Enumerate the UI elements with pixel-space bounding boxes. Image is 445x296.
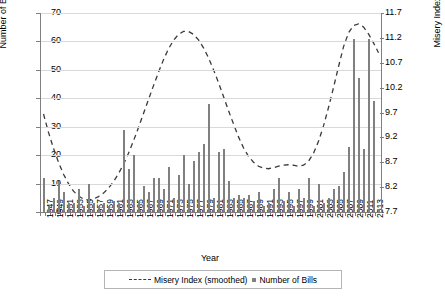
legend-label-misery-index: Misery Index (smoothed) [154, 275, 248, 285]
bar [198, 152, 200, 212]
bar [248, 195, 250, 212]
bar [133, 155, 135, 212]
gridline [41, 127, 381, 128]
bar [58, 181, 60, 212]
bar [113, 201, 115, 212]
bar [173, 198, 175, 212]
gridline [41, 155, 381, 156]
bar [213, 198, 215, 212]
y-axis-right-tick-label: 11.2 [385, 33, 425, 42]
bar [103, 203, 105, 212]
bar [288, 192, 290, 212]
bar [363, 149, 365, 212]
chart-figure: Number of Bills Misery Index Year 010203… [0, 0, 445, 296]
bar [123, 130, 125, 212]
y-axis-right-tick-label: 8.7 [385, 157, 425, 166]
y-axis-right-tick-label: 9.2 [385, 132, 425, 141]
bar [228, 181, 230, 212]
bar [253, 201, 255, 212]
bar [148, 192, 150, 212]
bar [348, 147, 350, 212]
plot-area [40, 13, 382, 213]
bar [153, 178, 155, 212]
bar [373, 101, 375, 212]
bar [108, 206, 110, 212]
bar [98, 206, 100, 212]
bar [298, 189, 300, 212]
bar [333, 189, 335, 212]
legend-label-number-of-bills: Number of Bills [259, 275, 317, 285]
bar [78, 189, 80, 212]
bar [303, 198, 305, 212]
bar [63, 192, 65, 212]
bar [273, 189, 275, 212]
gridline [41, 98, 381, 99]
bar [378, 209, 380, 212]
bar [118, 203, 120, 212]
bar [338, 186, 340, 212]
bar [218, 152, 220, 212]
bar [283, 201, 285, 212]
bar [308, 178, 310, 212]
bar [83, 206, 85, 212]
bar [293, 206, 295, 212]
bar-swatch-icon [252, 278, 256, 282]
bar [278, 178, 280, 212]
legend-item-number-of-bills: Number of Bills [252, 275, 317, 285]
bar [68, 203, 70, 212]
bar [88, 184, 90, 212]
bar [323, 203, 325, 212]
bar [263, 206, 265, 212]
y-axis-right-tick-label: 10.7 [385, 58, 425, 67]
bar [233, 198, 235, 212]
misery-index-line [41, 13, 381, 212]
gridline [41, 41, 381, 42]
bar [343, 172, 345, 212]
bar [48, 206, 50, 212]
bar [243, 198, 245, 212]
bar [193, 161, 195, 212]
bar [238, 195, 240, 212]
bar [138, 201, 140, 212]
bar [203, 144, 205, 212]
bar [168, 167, 170, 212]
gridline [41, 184, 381, 185]
y-axis-right-tick-label: 9.7 [385, 108, 425, 117]
bar [188, 184, 190, 212]
bar [318, 184, 320, 212]
bar [368, 39, 370, 212]
y-axis-right-tick-label: 11.7 [385, 8, 425, 17]
y-axis-right-tick-label: 7.7 [385, 207, 425, 216]
bar [258, 192, 260, 212]
bar [358, 78, 360, 212]
bar [353, 39, 355, 212]
gridline [41, 70, 381, 71]
y-axis-title-right: Misery Index [432, 0, 442, 72]
y-axis-title-left: Number of Bills [0, 0, 8, 68]
y-axis-right-tick-label: 8.2 [385, 182, 425, 191]
bar [183, 155, 185, 212]
chart-legend: Misery Index (smoothed) Number of Bills [104, 270, 342, 289]
bar [93, 203, 95, 212]
gridline [41, 13, 381, 14]
y-axis-right-tick-label: 10.2 [385, 83, 425, 92]
bar [208, 104, 210, 212]
bar [128, 169, 130, 212]
legend-item-misery-index: Misery Index (smoothed) [129, 275, 248, 285]
bar [143, 186, 145, 212]
x-axis-title: Year [40, 253, 380, 263]
bar [158, 178, 160, 212]
dashed-line-icon [129, 279, 151, 280]
bar [73, 203, 75, 212]
bar [53, 198, 55, 212]
bar [163, 189, 165, 212]
bar [43, 178, 45, 212]
bar [223, 149, 225, 212]
bar [313, 206, 315, 212]
bar [328, 198, 330, 212]
bar [178, 175, 180, 212]
bar [268, 203, 270, 212]
